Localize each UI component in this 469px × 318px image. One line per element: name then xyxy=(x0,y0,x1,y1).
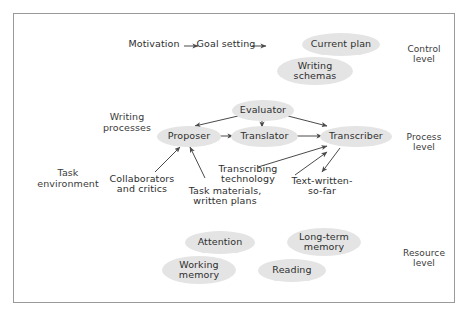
arrow-transcriber-to-textwritten xyxy=(322,148,340,172)
node-writing-schemas[interactable]: Writing schemas xyxy=(277,57,353,85)
process-level-label: Process level xyxy=(396,132,452,153)
goal-setting-label: Goal setting xyxy=(196,39,256,49)
arrow-evaluator-to-transcriber xyxy=(288,116,327,126)
writing-processes-label: Writing processes xyxy=(94,112,160,134)
control-level-label: Control level xyxy=(396,44,452,65)
task-materials-label: Task materials, written plans xyxy=(181,186,269,207)
node-transcriber[interactable]: Transcriber xyxy=(320,126,392,147)
resource-level-label: Resource level xyxy=(396,248,452,269)
text-written-so-far-label: Text-written- so-far xyxy=(280,176,364,197)
task-environment-label: Task environment xyxy=(26,168,110,190)
diagram-figure: Motivation Goal setting Current plan Wri… xyxy=(0,0,469,318)
node-working-memory[interactable]: Working memory xyxy=(162,256,236,284)
node-translator[interactable]: Translator xyxy=(231,126,298,147)
node-attention[interactable]: Attention xyxy=(185,231,255,254)
node-long-term-memory[interactable]: Long-term memory xyxy=(287,228,361,256)
arrow-evaluator-to-proposer xyxy=(195,116,238,126)
node-evaluator[interactable]: Evaluator xyxy=(232,100,294,121)
arrow-collaborators-to-proposer xyxy=(155,147,180,172)
node-reading[interactable]: Reading xyxy=(258,259,326,282)
node-current-plan[interactable]: Current plan xyxy=(302,33,380,56)
transcribing-technology-label: Transcribing technology xyxy=(206,164,290,185)
motivation-label: Motivation xyxy=(124,39,184,49)
node-proposer[interactable]: Proposer xyxy=(157,126,221,147)
arrow-taskmaterials-to-proposer xyxy=(190,147,205,178)
collaborators-label: Collaborators and critics xyxy=(100,174,184,195)
